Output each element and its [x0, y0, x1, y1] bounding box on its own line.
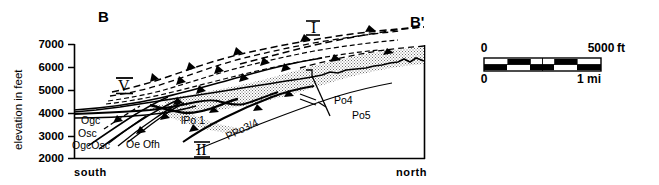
y-tick-4000: 4000 [38, 107, 64, 119]
formation-label-po5: Po5 [352, 109, 371, 121]
y-axis-title: elevation in feet [12, 69, 24, 150]
formation-label-ogcosc: OgcOsc [72, 139, 110, 151]
cross-section-svg: 7000 6000 5000 4000 3000 2000 elevation … [0, 0, 659, 185]
y-tick-5000: 5000 [38, 84, 64, 96]
y-tick-6000: 6000 [38, 61, 64, 73]
formation-label-osc-upper: Osc [78, 127, 97, 139]
geologic-cross-section-figure: 7000 6000 5000 4000 3000 2000 elevation … [0, 0, 659, 185]
scale-bottom-right-label: 1 mi [577, 72, 601, 86]
y-tick-7000: 7000 [38, 38, 64, 50]
figure-background [0, 0, 659, 185]
scale-top-unit-label: ft [617, 41, 625, 55]
sheet-label-II: II [196, 141, 207, 158]
y-tick-3000: 3000 [38, 130, 64, 142]
sheet-label-V: V [118, 77, 130, 94]
formation-label-po4: Po4 [334, 94, 353, 106]
formation-label-oe-ofh: Oe Ofh [126, 138, 160, 150]
formation-label-ipo1: lPo 1 [181, 114, 205, 126]
scale-top-right-label: 5000 [588, 41, 615, 55]
direction-label-south: south [74, 166, 107, 178]
formation-label-ogc-upper: Ogc [81, 114, 100, 126]
direction-label-north: north [396, 166, 427, 178]
y-tick-2000: 2000 [38, 152, 64, 164]
section-label-left: B [98, 8, 109, 25]
scale-bottom-left-label: 0 [481, 72, 488, 86]
scale-top-left-label: 0 [481, 41, 488, 55]
